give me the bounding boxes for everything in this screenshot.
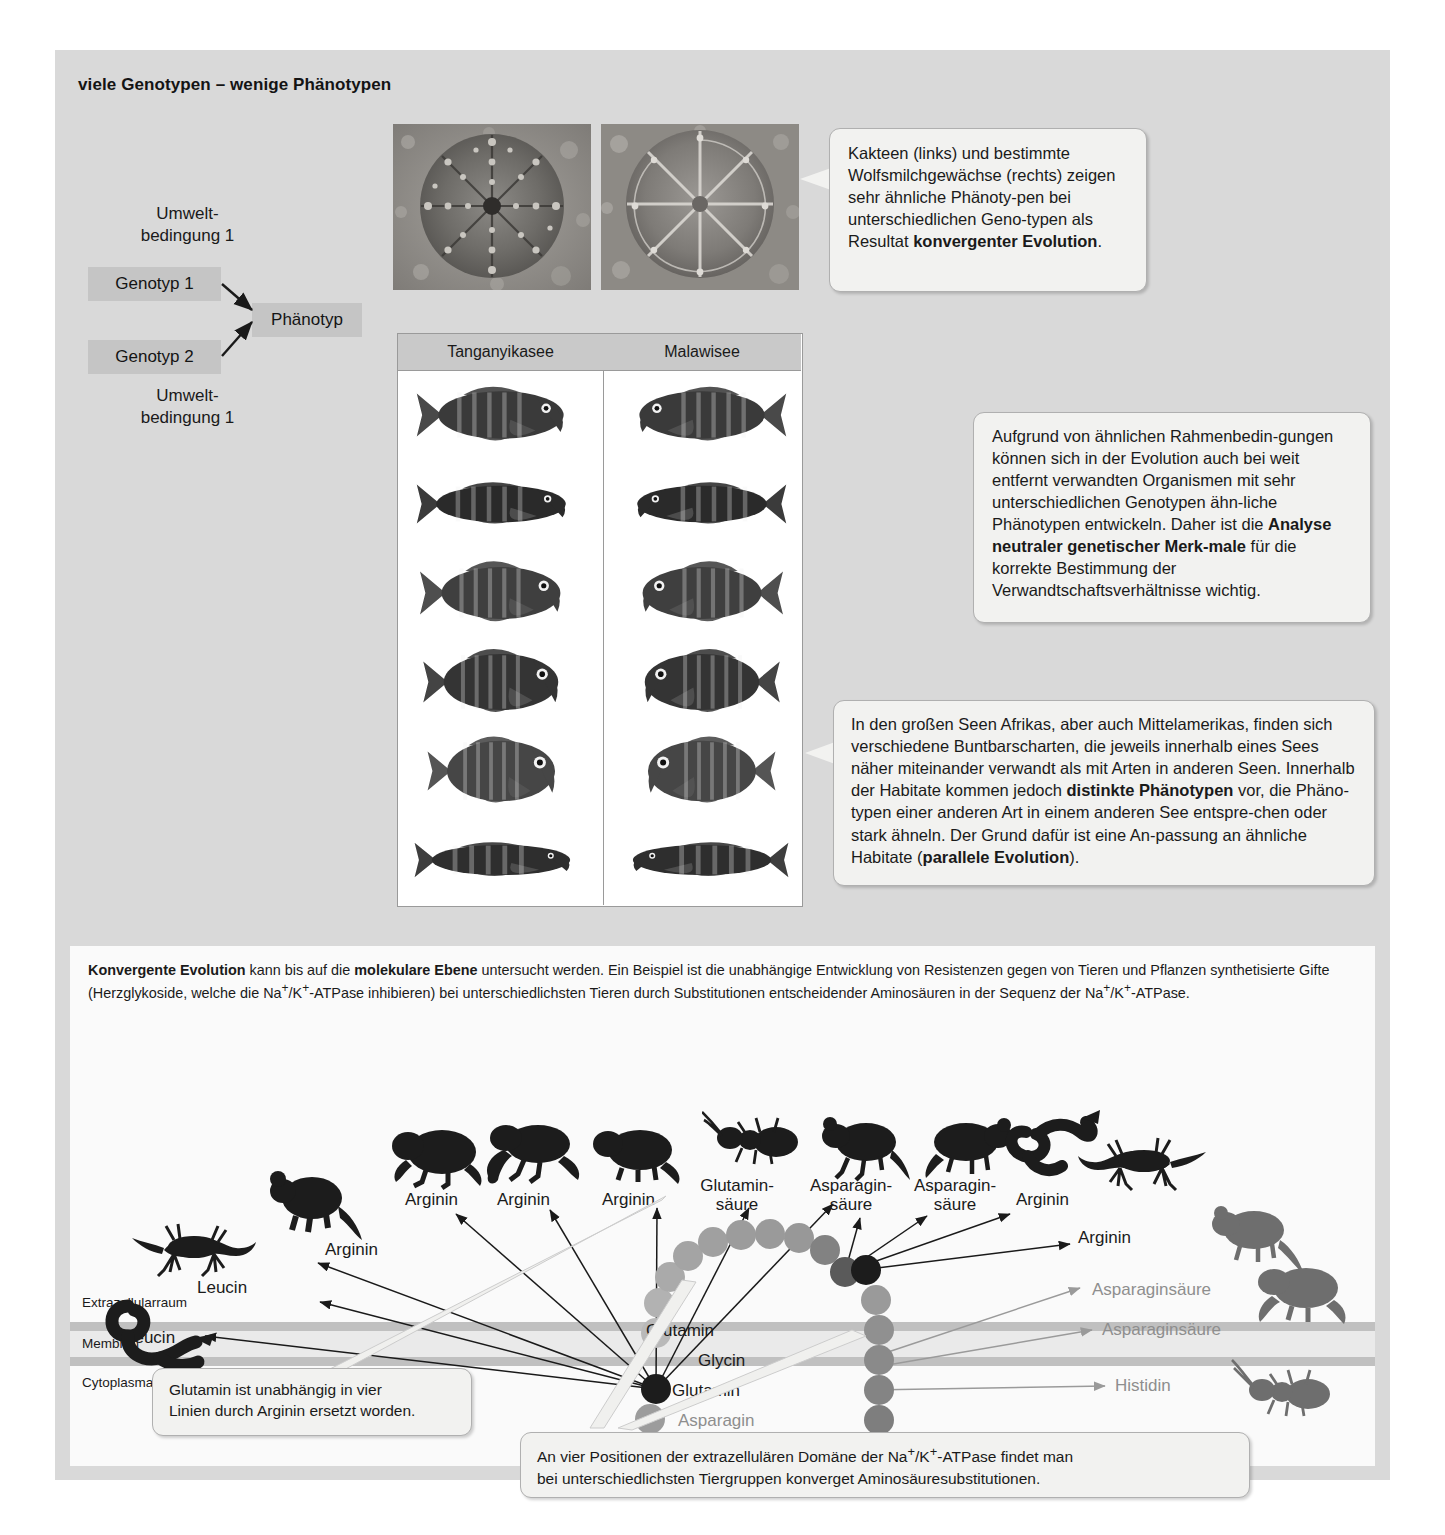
cactus-photo: [393, 124, 591, 290]
tanganyika-column: [398, 370, 604, 905]
cichlid-comparison-table: Tanganyikasee Malawisee: [397, 333, 803, 907]
label-histidin-ant-grey: Histidin: [1115, 1376, 1171, 1395]
env-condition-top-label: Umwelt- bedingung 1: [100, 203, 275, 247]
euphorbia-photo: [601, 124, 799, 290]
fish-illustration-cell: [603, 815, 801, 904]
label-arginin-snake2: Arginin: [1016, 1190, 1069, 1209]
molecular-intro-text: Konvergente Evolution kann bis auf die m…: [88, 960, 1358, 1004]
callout-positions-text: An vier Positionen der extrazellulären D…: [537, 1443, 1233, 1489]
fish-illustration-cell: [603, 459, 801, 548]
callout-glutamin-text: Glutamin ist unabhängig in vier Linien d…: [169, 1380, 455, 1422]
label-arginin-lizard2: Arginin: [1078, 1228, 1131, 1247]
fish-illustration-cell: [603, 726, 801, 815]
fish-illustration-cell: [398, 726, 603, 815]
callout-cacti: Kakteen (links) und bestimmte Wolfsmilch…: [829, 128, 1147, 292]
fish-illustration-cell: [603, 637, 801, 726]
fish-illustration-cell: [603, 548, 801, 637]
ant-silhouette-1: [702, 1106, 806, 1174]
label-asparaginsaeure-mouse-grey: Asparaginsäure: [1092, 1280, 1211, 1299]
callout-cichlids-text: In den großen Seen Afrikas, aber auch Mi…: [851, 713, 1357, 868]
callout-tail-cichlid: [805, 742, 835, 764]
callout-glutamin-note: Glutamin ist unabhängig in vier Linien d…: [152, 1368, 472, 1436]
page-title: viele Genotypen – wenige Phänotypen: [78, 75, 391, 95]
wedge-pointer-positions: [560, 1260, 980, 1440]
ant-silhouette-grey: [1228, 1356, 1338, 1428]
fish-illustration-cell: [398, 637, 603, 726]
fish-illustration-cell: [603, 370, 801, 459]
callout-neutral-markers: Aufgrund von ähnlichen Rahmenbedin-gunge…: [973, 412, 1371, 623]
callout-cichlids: In den großen Seen Afrikas, aber auch Mi…: [833, 700, 1375, 886]
fish-illustration-cell: [398, 459, 603, 548]
label-asparaginsaeure-frog-grey: Asparaginsäure: [1102, 1320, 1221, 1339]
mouse-silhouette-2: [916, 1112, 1016, 1182]
fish-illustration-cell: [398, 548, 603, 637]
fish-illustration-cell: [398, 815, 603, 904]
figure-page: viele Genotypen – wenige Phänotypen Umwe…: [0, 0, 1445, 1535]
table-header-malawi: Malawisee: [603, 334, 801, 371]
malawi-column: [603, 370, 801, 905]
callout-neutral-text: Aufgrund von ähnlichen Rahmenbedin-gunge…: [992, 426, 1352, 602]
callout-positions-note: An vier Positionen der extrazellulären D…: [520, 1432, 1250, 1498]
table-header-tanganyika: Tanganyikasee: [398, 334, 604, 371]
frog-silhouette-grey: [1250, 1256, 1356, 1330]
callout-tail-cacti: [800, 168, 831, 190]
callout-cacti-text: Kakteen (links) und bestimmte Wolfsmilch…: [848, 143, 1128, 253]
lizard-silhouette-2: [1070, 1130, 1210, 1206]
env-condition-bottom-label: Umwelt- bedingung 1: [100, 385, 275, 429]
genotype-to-phenotype-arrows: [200, 260, 380, 380]
rat-silhouette-1: [810, 1112, 914, 1184]
fish-illustration-cell: [398, 370, 603, 459]
